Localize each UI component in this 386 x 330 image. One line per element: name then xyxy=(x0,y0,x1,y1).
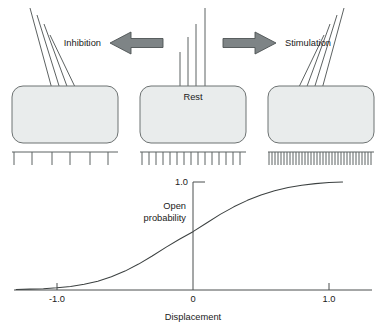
spike-train-left xyxy=(12,152,118,165)
stereocilia-bundle-right xyxy=(298,8,344,89)
open-probability-curve xyxy=(16,182,342,289)
panel-inhibition xyxy=(12,8,118,165)
stereocilia-bundle-rest xyxy=(180,8,205,89)
y-axis-max-label: 1.0 xyxy=(175,177,188,187)
label-stimulation: Stimulation xyxy=(285,38,331,48)
x-axis-label-minus1: -1.0 xyxy=(49,294,65,304)
x-axis-title: Displacement xyxy=(165,312,222,322)
hair-cell-transduction-figure: Rest xyxy=(0,0,386,330)
spike-train-right xyxy=(268,152,374,165)
y-axis-title-line1: Open xyxy=(163,201,186,211)
arrow-right-stimulation xyxy=(223,32,276,54)
y-axis-title-line2: probability xyxy=(144,213,187,223)
open-probability-chart: 1.0 Open probability -1.0 0 1.0 Displace… xyxy=(14,177,372,322)
x-axis-label-plus1: 1.0 xyxy=(323,294,336,304)
hair-cell-body-left xyxy=(12,86,118,143)
label-inhibition: Inhibition xyxy=(64,38,101,48)
arrow-left-inhibition xyxy=(110,32,163,54)
spike-train-rest xyxy=(140,152,246,165)
cell-label-rest: Rest xyxy=(183,92,203,102)
x-axis-label-zero: 0 xyxy=(190,294,195,304)
stereocilia-bundle-left xyxy=(30,8,76,89)
panel-stimulation xyxy=(268,8,374,165)
panel-rest: Rest xyxy=(140,8,246,165)
hair-cell-body-right xyxy=(268,86,374,143)
